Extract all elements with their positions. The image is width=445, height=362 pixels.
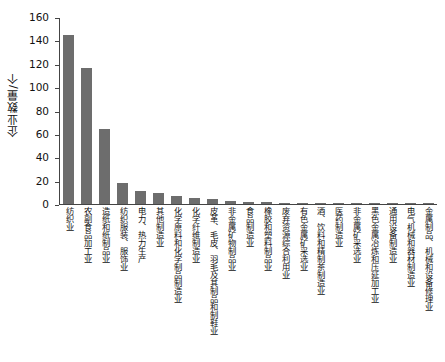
y-axis-tick-label: 20 — [36, 175, 49, 187]
bar-chart: 企业数量/个 020406080100120140160 纺织业农副食品加工业造… — [0, 0, 445, 362]
bar-slot — [329, 18, 347, 204]
plot-area: 020406080100120140160 — [59, 18, 437, 205]
bar — [297, 203, 308, 204]
x-axis-line — [59, 204, 437, 205]
bar — [333, 203, 344, 204]
x-axis-tick-label: 废弃资源综合利用业 — [280, 207, 288, 279]
x-axis-tick-label-slot: 非金属矿采选业 — [347, 207, 365, 359]
bar-slot — [311, 18, 329, 204]
y-axis-tick-label: 120 — [29, 58, 49, 70]
bar — [279, 203, 290, 204]
x-axis-tick-label-slot: 通用设备制造业 — [383, 207, 401, 359]
bar-series — [60, 18, 437, 204]
bar — [243, 202, 254, 204]
y-axis-tick: 120 — [55, 65, 59, 66]
x-axis-tick-label-slot: 造纸和纸制品业 — [96, 207, 114, 359]
bar-slot — [60, 18, 78, 204]
x-axis-tick-label: 非金属矿采选业 — [352, 207, 360, 263]
bar-slot — [186, 18, 204, 204]
bar-slot — [132, 18, 150, 204]
bar — [315, 203, 326, 204]
bar-slot — [257, 18, 275, 204]
bar-slot — [401, 18, 419, 204]
x-axis-tick-label-slot: 酒、饮料和精制茶制造业 — [311, 207, 329, 359]
x-axis-tick-label-slot: 纺织服装、服饰业 — [114, 207, 132, 359]
bar — [189, 198, 200, 204]
y-axis-tick: 60 — [55, 135, 59, 136]
x-axis-tick-label-slot: 其他制造业 — [150, 207, 168, 359]
bar-slot — [150, 18, 168, 204]
bar-slot — [96, 18, 114, 204]
bar-slot — [114, 18, 132, 204]
bar — [81, 68, 92, 204]
x-axis-tick-label: 食品制造业 — [244, 207, 252, 247]
bar — [423, 203, 434, 204]
bar-slot — [419, 18, 437, 204]
x-axis-tick-label: 化学原料和化学制品制造业 — [173, 207, 181, 303]
x-axis-tick-label: 医药制造业 — [334, 207, 342, 247]
bar-slot — [383, 18, 401, 204]
bar-slot — [293, 18, 311, 204]
x-axis-tick-label: 电气机械和器材制造业 — [406, 207, 414, 287]
bar — [387, 203, 398, 204]
x-axis-tick-label: 通用设备制造业 — [388, 207, 396, 263]
y-axis-title-label: 企业数量/个 — [6, 72, 22, 137]
x-axis-tick-label: 化学纤维制造业 — [190, 207, 198, 263]
x-axis-tick-label-slot: 农副食品加工业 — [78, 207, 96, 359]
bar — [63, 35, 74, 204]
y-axis-tick: 160 — [55, 18, 59, 19]
bar — [153, 193, 164, 204]
y-axis-tick: 140 — [55, 41, 59, 42]
bar — [99, 129, 110, 204]
x-axis-tick-label-slot: 皮革、毛皮、羽毛及其制品和制鞋业 — [204, 207, 222, 359]
y-axis-tick-label: 80 — [36, 105, 49, 117]
bar — [207, 199, 218, 204]
bar — [135, 191, 146, 204]
x-axis-tick-label: 有色金属矿采选业 — [298, 207, 306, 271]
bar-slot — [222, 18, 240, 204]
y-axis-tick-label: 140 — [29, 34, 49, 46]
x-axis-tick-label-slot: 黑色金属冶炼和压延加工业 — [365, 207, 383, 359]
x-axis-tick-label: 造纸和纸制品业 — [101, 207, 109, 263]
x-axis-tick-label: 黑色金属冶炼和压延加工业 — [370, 207, 378, 303]
y-axis-title: 企业数量/个 — [2, 0, 26, 208]
y-axis-tick: 80 — [55, 112, 59, 113]
x-axis-tick-label-slot: 橡胶和塑料制品业 — [257, 207, 275, 359]
y-axis-tick: 20 — [55, 182, 59, 183]
x-axis-tick-label-slot: 金属制品、机械和设备修理业 — [419, 207, 437, 359]
x-axis-tick-label: 金属制品、机械和设备修理业 — [424, 207, 432, 311]
x-axis-tick-label-slot: 电力、热力生产 — [132, 207, 150, 359]
x-axis-tick-label-slot: 食品制造业 — [240, 207, 258, 359]
bar — [225, 201, 236, 205]
x-axis-tick-label-slot: 化学纤维制造业 — [186, 207, 204, 359]
x-axis-tick-labels: 纺织业农副食品加工业造纸和纸制品业纺织服装、服饰业电力、热力生产其他制造业化学原… — [60, 207, 437, 359]
bar-slot — [347, 18, 365, 204]
bar-slot — [240, 18, 258, 204]
bar-slot — [365, 18, 383, 204]
x-axis-tick-label: 纺织服装、服饰业 — [119, 207, 127, 271]
y-axis-tick-label: 160 — [29, 11, 49, 23]
x-axis-tick-label-slot: 有色金属矿采选业 — [293, 207, 311, 359]
y-axis-tick-label: 0 — [42, 198, 49, 210]
y-axis-tick-label: 40 — [36, 151, 49, 163]
x-axis-tick-label-slot: 化学原料和化学制品制造业 — [168, 207, 186, 359]
bar — [171, 196, 182, 204]
x-axis-tick-label: 电力、热力生产 — [137, 207, 145, 263]
bar-slot — [204, 18, 222, 204]
x-axis-tick-label-slot: 非金属矿物制品业 — [222, 207, 240, 359]
x-axis-tick-label: 农副食品加工业 — [83, 207, 91, 263]
x-axis-tick-label-slot: 医药制造业 — [329, 207, 347, 359]
bar-slot — [78, 18, 96, 204]
y-axis-tick: 100 — [55, 88, 59, 89]
x-axis-tick-label: 纺织业 — [65, 207, 73, 231]
y-axis-tick-label: 100 — [29, 81, 49, 93]
y-axis-tick: 0 — [55, 205, 59, 206]
bar-slot — [275, 18, 293, 204]
x-axis-tick-label-slot: 纺织业 — [60, 207, 78, 359]
x-axis-tick-label: 其他制造业 — [155, 207, 163, 247]
bar — [261, 202, 272, 204]
bar — [405, 203, 416, 204]
x-axis-tick-label-slot: 废弃资源综合利用业 — [275, 207, 293, 359]
x-axis-tick-label: 橡胶和塑料制品业 — [262, 207, 270, 271]
bar — [369, 203, 380, 204]
